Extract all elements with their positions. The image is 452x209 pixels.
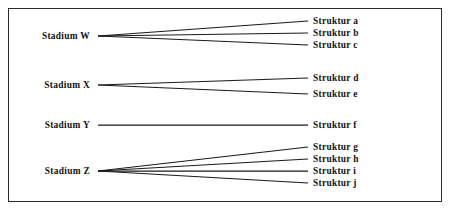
struktur-node-c: Struktur c xyxy=(313,40,358,50)
struktur-node-e: Struktur e xyxy=(313,89,358,99)
struktur-node-j: Struktur j xyxy=(313,178,357,188)
stadium-node-y: Stadium Y xyxy=(45,120,90,130)
struktur-node-b: Struktur b xyxy=(313,28,359,38)
struktur-node-h: Struktur h xyxy=(313,154,359,164)
struktur-node-a: Struktur a xyxy=(313,16,358,26)
struktur-node-d: Struktur d xyxy=(313,73,359,83)
struktur-node-g: Struktur g xyxy=(313,142,358,152)
struktur-node-f: Struktur f xyxy=(313,120,357,130)
struktur-node-i: Struktur i xyxy=(313,166,356,176)
stadium-node-x: Stadium X xyxy=(44,80,90,90)
stadium-node-w: Stadium W xyxy=(42,31,90,41)
mapping-diagram: Stadium WStadium XStadium YStadium Z Str… xyxy=(0,0,452,209)
stadium-node-z: Stadium Z xyxy=(45,166,90,176)
